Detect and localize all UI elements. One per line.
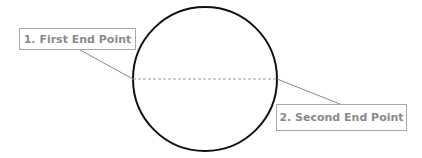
second-end-point-label: 2. Second End Point: [276, 104, 407, 131]
leader-line-first: [80, 50, 133, 79]
diagram-canvas: 1. First End Point 2. Second End Point: [0, 0, 422, 158]
first-end-point-text: 1. First End Point: [24, 33, 132, 46]
leader-line-second: [277, 79, 340, 104]
first-end-point-label: 1. First End Point: [19, 28, 136, 50]
circle-diagram: [0, 0, 422, 158]
second-end-point-text: 2. Second End Point: [279, 111, 403, 124]
